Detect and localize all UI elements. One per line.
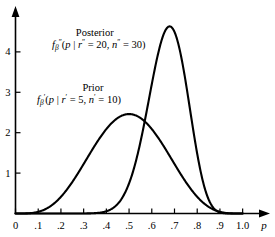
x-tick-label-4: .4: [102, 220, 111, 231]
x-tick-label-10: 1.0: [236, 220, 249, 231]
prior-annotation: Prior fβ′(p | r′ = 5, n′ = 10): [37, 82, 121, 108]
x-axis-arrowhead: [259, 210, 270, 218]
posterior-formula-bar: |: [71, 39, 78, 50]
prior-formula: fβ′(p | r′ = 5, n′ = 10): [37, 94, 121, 108]
y-tick-label-2: 3: [5, 87, 10, 98]
x-tick-label-8: .8: [193, 220, 201, 231]
beta-distribution-figure: 0.1.2.3.4.5.6.7.8.91.0 1234 p Posterior …: [0, 0, 275, 237]
y-axis-tick-labels: 1234: [5, 46, 11, 178]
x-tick-label-3: .3: [80, 220, 88, 231]
x-tick-label-7: .7: [171, 220, 179, 231]
posterior-formula: fβ″(p | r″ = 20, n″ = 30): [42, 39, 146, 53]
x-tick-label-5: .5: [125, 220, 133, 231]
posterior-label: Posterior: [42, 27, 146, 39]
x-tick-label-6: .6: [148, 220, 156, 231]
y-tick-label-0: 1: [5, 168, 10, 179]
x-tick-label-1: .1: [34, 220, 42, 231]
posterior-formula-n-value: = 30): [120, 39, 145, 50]
posterior-formula-r-value: = 20,: [85, 39, 112, 50]
prior-formula-n-value: = 10): [96, 94, 121, 105]
x-tick-label-0: 0: [13, 220, 18, 231]
prior-formula-r-value: = 5,: [67, 94, 89, 105]
posterior-annotation: Posterior fβ″(p | r″ = 20, n″ = 30): [42, 27, 146, 53]
posterior-curve: [16, 26, 243, 213]
y-axis-arrowhead: [12, 6, 20, 17]
prior-label: Prior: [37, 82, 121, 94]
x-tick-label-2: .2: [57, 220, 65, 231]
y-tick-label-1: 2: [5, 127, 10, 138]
y-tick-label-3: 4: [5, 46, 11, 57]
x-axis-tick-labels: 0.1.2.3.4.5.6.7.8.91.0: [13, 220, 249, 231]
x-tick-label-9: .9: [216, 220, 224, 231]
x-axis-label: p: [260, 219, 267, 231]
